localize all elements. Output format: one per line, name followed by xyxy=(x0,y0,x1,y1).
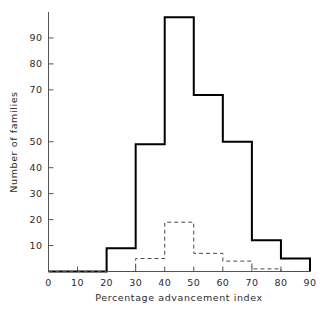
y-axis-title: Number of families xyxy=(8,91,19,192)
x-tick-label: 30 xyxy=(129,277,142,288)
x-tick-label: 80 xyxy=(274,277,287,288)
chart-canvas: 1020304050708090 Number of families 0102… xyxy=(0,0,323,317)
y-tick-label: 80 xyxy=(30,58,43,69)
x-tick-label: 60 xyxy=(216,277,229,288)
x-tick-label: 10 xyxy=(71,277,84,288)
y-tick-label: 20 xyxy=(30,214,43,225)
x-tick-label: 40 xyxy=(158,277,171,288)
y-tick-label: 10 xyxy=(30,240,43,251)
histogram-chart: 1020304050708090 Number of families 0102… xyxy=(0,0,323,317)
y-tick-label: 40 xyxy=(30,162,43,173)
y-tick-label: 70 xyxy=(30,84,43,95)
x-tick-label: 90 xyxy=(304,277,317,288)
y-tick-label: 30 xyxy=(30,188,43,199)
x-axis-title: Percentage advancement index xyxy=(95,292,263,303)
x-tick-label: 50 xyxy=(187,277,200,288)
y-tick-label: 50 xyxy=(30,136,43,147)
x-tick-label: 20 xyxy=(100,277,113,288)
x-tick-label: 0 xyxy=(45,277,51,288)
x-tick-label: 70 xyxy=(245,277,258,288)
y-tick-labels: 1020304050708090 xyxy=(30,32,43,251)
y-tick-label: 90 xyxy=(30,32,43,43)
